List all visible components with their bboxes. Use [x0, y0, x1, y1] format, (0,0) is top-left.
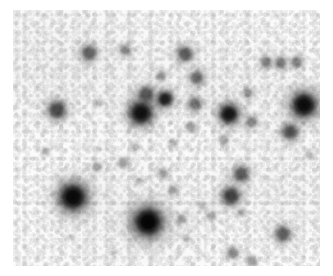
star-field-page — [0, 0, 333, 276]
astronomical-image-plate — [13, 10, 320, 266]
sky-noise-layer-fine — [13, 10, 320, 266]
